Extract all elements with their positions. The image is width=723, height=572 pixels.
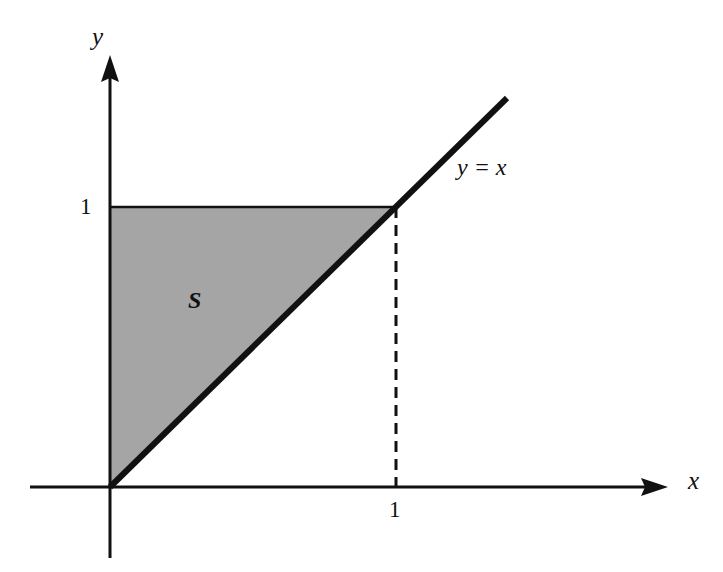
- x-axis-tick-label-1: 1: [389, 498, 401, 521]
- y-axis-arrowhead-icon: [101, 55, 119, 82]
- y-axis-tick-label-1: 1: [80, 195, 92, 218]
- region-label-s: S: [188, 288, 201, 312]
- y-axis-label: y: [92, 24, 103, 49]
- x-axis-label: x: [688, 468, 699, 493]
- line-equation-label: y = x: [457, 155, 507, 179]
- x-axis-arrowhead-icon: [641, 478, 668, 496]
- figure-canvas: [0, 0, 723, 572]
- math-figure: y x 1 1 S y = x: [0, 0, 723, 572]
